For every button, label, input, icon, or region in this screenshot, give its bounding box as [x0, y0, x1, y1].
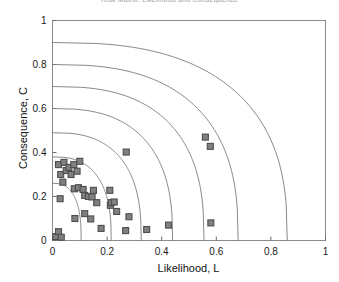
- data-point-marker: [111, 199, 117, 205]
- data-point-marker: [98, 225, 104, 231]
- y-tick-label: 0: [9, 235, 47, 246]
- y-axis-title: Consequence, C: [17, 68, 29, 188]
- data-point-marker: [74, 168, 80, 174]
- x-tick-label: 0.8: [251, 246, 291, 257]
- y-tick-label: 0.6: [9, 103, 47, 114]
- data-point-marker: [123, 149, 129, 155]
- data-point-marker: [144, 227, 150, 233]
- x-tick-label: 0.4: [142, 246, 182, 257]
- data-point-marker: [77, 158, 83, 164]
- risk-chart-figure: Risk Matrix: Likelihood and Consequence …: [0, 0, 339, 282]
- plot-area: [0, 0, 339, 282]
- data-point-marker: [207, 143, 213, 149]
- data-point-marker: [60, 179, 66, 185]
- data-point-marker: [88, 216, 94, 222]
- data-point-marker: [82, 211, 88, 217]
- data-point-marker: [68, 172, 74, 178]
- data-point-marker: [208, 220, 214, 226]
- data-point-marker: [166, 222, 172, 228]
- data-point-marker: [90, 187, 96, 193]
- data-point-marker: [202, 134, 208, 140]
- x-tick-label: 0.2: [87, 246, 127, 257]
- plot-frame: [53, 21, 326, 241]
- data-point-marker: [89, 194, 95, 200]
- data-point-marker: [57, 196, 63, 202]
- iso-risk-curve: [53, 65, 239, 241]
- x-tick-label: 1: [306, 246, 339, 257]
- data-point-marker: [107, 187, 113, 193]
- data-point-marker: [126, 214, 132, 220]
- x-axis-title: Likelihood, L: [52, 262, 325, 274]
- x-tick-label: 0.6: [196, 246, 236, 257]
- data-point-marker: [71, 162, 77, 168]
- data-point-marker: [94, 200, 100, 206]
- data-point-marker: [80, 186, 86, 192]
- data-point-marker: [123, 228, 129, 234]
- y-tick-label: 0.8: [9, 59, 47, 70]
- y-tick-label: 1: [9, 15, 47, 26]
- x-tick-label: 0: [33, 246, 73, 257]
- y-tick-label: 0.4: [9, 147, 47, 158]
- data-point-marker: [114, 208, 120, 214]
- y-tick-label: 0.2: [9, 191, 47, 202]
- data-point-marker: [58, 234, 64, 240]
- data-point-marker: [72, 216, 78, 222]
